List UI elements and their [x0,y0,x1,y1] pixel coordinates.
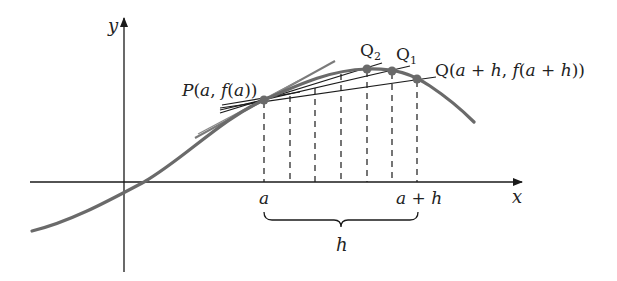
point-q2-label: Q2 [360,40,381,63]
tick-label-a-plus-h: a + h [396,188,442,208]
tick-label-a: a [259,188,269,208]
y-axis-label: y [107,15,119,36]
point-q1-label: Q1 [396,44,417,67]
brace-label-h: h [336,234,348,255]
point-p-label: P(a, f(a)) [181,80,257,100]
point-q2 [363,65,372,74]
x-axis-label: x [512,186,522,207]
point-q [413,75,422,84]
point-q-label: Q(a + h, f(a + h)) [435,60,585,80]
brace-h [264,212,418,227]
secant-tangent-diagram: y x P(a, f(a)) Q2 Q1 Q(a + h, f(a + h)) … [0,0,617,281]
point-q1 [388,67,397,76]
point-p [260,96,269,105]
diagram-canvas: y x P(a, f(a)) Q2 Q1 Q(a + h, f(a + h)) … [0,0,617,281]
